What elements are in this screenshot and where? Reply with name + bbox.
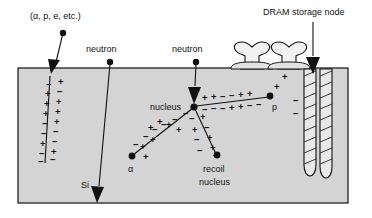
svg-text:+: +	[166, 119, 172, 130]
label-dram-storage-node: DRAM storage node	[263, 7, 345, 17]
svg-text:+: +	[150, 134, 156, 145]
label-recoil-line2: nucleus	[199, 177, 231, 187]
svg-text:+: +	[274, 81, 280, 92]
svg-text:+: +	[238, 101, 244, 112]
label-nucleus: nucleus	[150, 102, 182, 112]
svg-text:+: +	[238, 89, 244, 100]
label-particle-source: (α, p, e, etc.)	[30, 11, 81, 21]
label-proton: p	[272, 102, 277, 112]
svg-text:−: −	[229, 90, 235, 101]
label-neutron-right: neutron	[172, 44, 203, 54]
svg-text:−: −	[189, 113, 195, 124]
trench-capacitor-left	[304, 69, 316, 176]
svg-text:−: −	[293, 108, 299, 119]
svg-text:+: +	[247, 88, 253, 99]
silicon-substrate	[18, 68, 348, 203]
svg-text:−: −	[293, 95, 299, 106]
label-silicon: Si	[81, 180, 89, 190]
svg-text:−: −	[197, 145, 203, 156]
svg-text:−: −	[247, 100, 253, 111]
svg-text:−: −	[133, 139, 139, 150]
svg-text:+: +	[282, 71, 288, 82]
svg-text:−: −	[194, 134, 200, 145]
gate-structure-left	[231, 42, 273, 69]
svg-text:+: +	[213, 150, 219, 161]
label-neutron-left: neutron	[86, 44, 117, 54]
svg-text:−: −	[220, 103, 226, 114]
svg-text:−: −	[50, 154, 56, 165]
svg-text:−: −	[38, 156, 44, 167]
svg-text:+: +	[211, 91, 217, 102]
trench-capacitor-right	[320, 69, 332, 178]
svg-text:+: +	[229, 102, 235, 113]
particle-source-dot	[60, 30, 66, 36]
figure-root: − + + − + + + + − + − − + − − + − − − −	[0, 0, 372, 218]
diagram-canvas: − + + − + + + + − + − − + − − + − − − −	[0, 0, 372, 218]
svg-text:+: +	[202, 92, 208, 103]
svg-text:+: +	[148, 122, 154, 133]
label-recoil-line1: recoil	[203, 164, 225, 174]
svg-text:+: +	[176, 124, 182, 135]
svg-text:−: −	[220, 91, 226, 102]
svg-text:−: −	[256, 99, 262, 110]
label-alpha: α	[128, 164, 133, 174]
svg-text:+: +	[143, 151, 149, 162]
svg-text:−: −	[211, 103, 217, 114]
svg-text:+: +	[157, 116, 163, 127]
proton-endpoint-dot	[267, 93, 274, 100]
svg-text:+: +	[200, 111, 206, 122]
alpha-endpoint-dot	[129, 153, 136, 160]
gate-structure-right	[268, 42, 310, 69]
